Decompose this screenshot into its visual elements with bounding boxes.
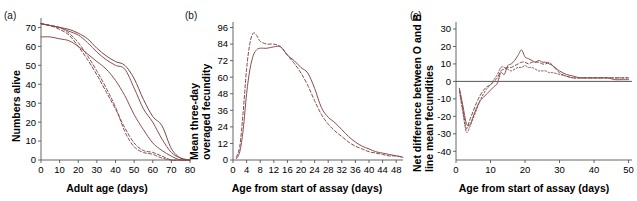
figure-container: (a) Numbers alive Adult age (days) 01020… [0, 0, 637, 201]
data-series-line [236, 46, 403, 158]
y-tick-label: 70 [25, 22, 36, 33]
x-tick-label: 4 [244, 164, 249, 175]
x-tick-label: 60 [147, 164, 158, 175]
y-tick-label: 72 [217, 55, 228, 66]
y-tick-label: 0 [446, 76, 451, 87]
x-tick-label: 48 [391, 164, 402, 175]
x-tick-label: 32 [337, 164, 348, 175]
x-tick-label: 20 [296, 164, 307, 175]
y-tick-label: 0 [223, 154, 228, 165]
x-tick-label: 16 [282, 164, 293, 175]
x-tick-label: 40 [364, 164, 375, 175]
x-tick-label: 30 [92, 164, 103, 175]
data-series-line [236, 33, 403, 157]
x-tick-label: 8 [258, 164, 263, 175]
x-tick-label: 40 [589, 164, 600, 175]
panel-c-x-axis-title: Age from start of assay (days) [434, 182, 634, 194]
y-tick-label: 30 [440, 23, 451, 34]
panel-c-plot: -40-30-20-10010203001020304050 [406, 0, 637, 178]
data-series-line [41, 37, 190, 160]
y-tick-label: 36 [217, 105, 228, 116]
x-tick-label: 44 [377, 164, 388, 175]
x-tick-label: 20 [73, 164, 84, 175]
x-tick-label: 0 [453, 164, 458, 175]
x-tick-label: 20 [520, 164, 531, 175]
y-tick-label: -10 [437, 93, 451, 104]
y-tick-label: 50 [25, 60, 36, 71]
y-tick-label: 0 [31, 154, 36, 165]
y-tick-label: -20 [437, 111, 451, 122]
x-tick-label: 24 [309, 164, 320, 175]
y-tick-label: 96 [217, 22, 228, 33]
data-series-line [459, 50, 628, 126]
y-tick-label: 12 [217, 138, 228, 149]
x-tick-label: 10 [54, 164, 65, 175]
y-tick-label: 60 [25, 41, 36, 52]
x-tick-label: 10 [485, 164, 496, 175]
y-tick-label: 60 [217, 72, 228, 83]
x-tick-label: 0 [38, 164, 43, 175]
panel-b-x-axis-title: Age from start of assay (days) [207, 182, 407, 194]
panel-b-plot: 0122436486072849604812162024283236404448 [183, 0, 410, 178]
panel-a: (a) Numbers alive Adult age (days) 01020… [0, 0, 200, 201]
x-tick-label: 0 [230, 164, 235, 175]
x-tick-label: 30 [554, 164, 565, 175]
y-tick-label: 10 [25, 135, 36, 146]
y-tick-label: 40 [25, 79, 36, 90]
x-tick-label: 70 [166, 164, 177, 175]
y-tick-label: 24 [217, 121, 228, 132]
x-tick-label: 50 [623, 164, 634, 175]
y-tick-label: 84 [217, 38, 228, 49]
panel-b: (b) Mean three-day overaged fecundity Ag… [183, 0, 410, 201]
x-tick-label: 28 [323, 164, 334, 175]
y-tick-label: -30 [437, 128, 451, 139]
y-tick-label: 10 [440, 58, 451, 69]
y-tick-label: 20 [25, 117, 36, 128]
x-tick-label: 36 [350, 164, 361, 175]
y-tick-label: 20 [440, 41, 451, 52]
x-tick-label: 40 [110, 164, 121, 175]
panel-a-plot: 01020304050607001020304050607080 [0, 0, 200, 178]
data-series-line [459, 66, 628, 133]
y-tick-label: 48 [217, 88, 228, 99]
x-tick-label: 50 [129, 164, 140, 175]
x-tick-label: 12 [269, 164, 280, 175]
panel-a-x-axis-title: Adult age (days) [22, 182, 192, 194]
data-series-line [41, 24, 190, 160]
y-tick-label: -40 [437, 146, 451, 157]
panel-c: (c) Net difference between O and B line … [406, 0, 637, 201]
y-tick-label: 30 [25, 98, 36, 109]
